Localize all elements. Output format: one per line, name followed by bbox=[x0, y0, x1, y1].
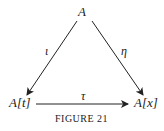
label-eta: η bbox=[121, 45, 127, 58]
node-a-x: A[x] bbox=[134, 96, 158, 109]
node-a: A bbox=[78, 5, 86, 18]
label-tau: τ bbox=[81, 90, 85, 103]
diagram-arrows bbox=[0, 0, 164, 131]
node-a-t: A[t] bbox=[9, 96, 31, 109]
arrow-eta bbox=[92, 21, 143, 95]
figure-caption: FIGURE 21 bbox=[55, 113, 108, 124]
label-iota: ι bbox=[45, 45, 48, 58]
arrow-iota bbox=[27, 21, 77, 95]
